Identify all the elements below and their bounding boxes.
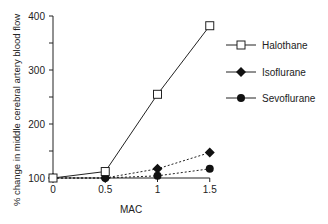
circle-marker-icon — [206, 165, 214, 173]
square-marker-icon — [49, 174, 57, 182]
x-axis-label: MAC — [120, 204, 142, 215]
diamond-marker-icon — [153, 164, 163, 174]
legend-item-isoflurane: Isoflurane — [226, 67, 306, 78]
diamond-marker-icon — [205, 148, 215, 158]
y-axis-label: % change in middle cerebral artery blood… — [11, 14, 22, 206]
x-tick-label: 1 — [155, 184, 161, 195]
axes: 10020030040000.511.5 — [28, 11, 217, 195]
square-marker-icon — [101, 168, 109, 176]
legend: HalothaneIsofluraneSevoflurane — [226, 40, 316, 104]
x-tick-label: 0 — [50, 184, 56, 195]
x-tick-label: 1.5 — [203, 184, 217, 195]
series-group — [48, 22, 215, 183]
diamond-marker-icon — [236, 67, 246, 77]
square-marker-icon — [154, 90, 162, 98]
square-marker-icon — [237, 41, 245, 49]
line-chart: 10020030040000.511.5 HalothaneIsoflurane… — [0, 0, 328, 224]
square-marker-icon — [206, 22, 214, 30]
legend-item-halothane: Halothane — [226, 40, 308, 51]
series-halothane — [49, 22, 214, 182]
y-tick-label: 100 — [28, 173, 45, 184]
legend-item-sevoflurane: Sevoflurane — [226, 93, 316, 104]
legend-label: Isoflurane — [262, 67, 306, 78]
series-sevoflurane — [49, 165, 214, 182]
circle-marker-icon — [237, 94, 245, 102]
x-tick-label: 0.5 — [98, 184, 112, 195]
y-tick-label: 400 — [28, 11, 45, 22]
legend-label: Sevoflurane — [262, 93, 316, 104]
legend-label: Halothane — [262, 40, 308, 51]
y-tick-label: 300 — [28, 65, 45, 76]
y-tick-label: 200 — [28, 119, 45, 130]
